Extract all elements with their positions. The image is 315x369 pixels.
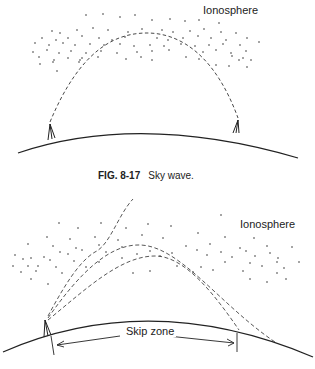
ionosphere-label-top: Ionosphere	[203, 4, 258, 16]
ionosphere-label-bottom: Ionosphere	[240, 218, 295, 230]
escape-ray	[48, 199, 133, 316]
earth-surface-top	[18, 134, 298, 158]
diagram-canvas	[0, 0, 315, 369]
transmit-antenna-icon	[48, 124, 55, 140]
figure-caption-text: Sky wave.	[148, 170, 194, 181]
figure-number: FIG. 8-17	[98, 170, 140, 181]
figure-caption: FIG. 8-17Sky wave.	[98, 170, 194, 181]
receive-antenna-icon	[233, 120, 239, 133]
lower-refracted-ray	[48, 256, 239, 330]
skip-zone-label: Skip zone	[124, 325, 176, 337]
ionosphere-dots-top	[32, 13, 260, 72]
sky-wave-path	[50, 33, 238, 122]
